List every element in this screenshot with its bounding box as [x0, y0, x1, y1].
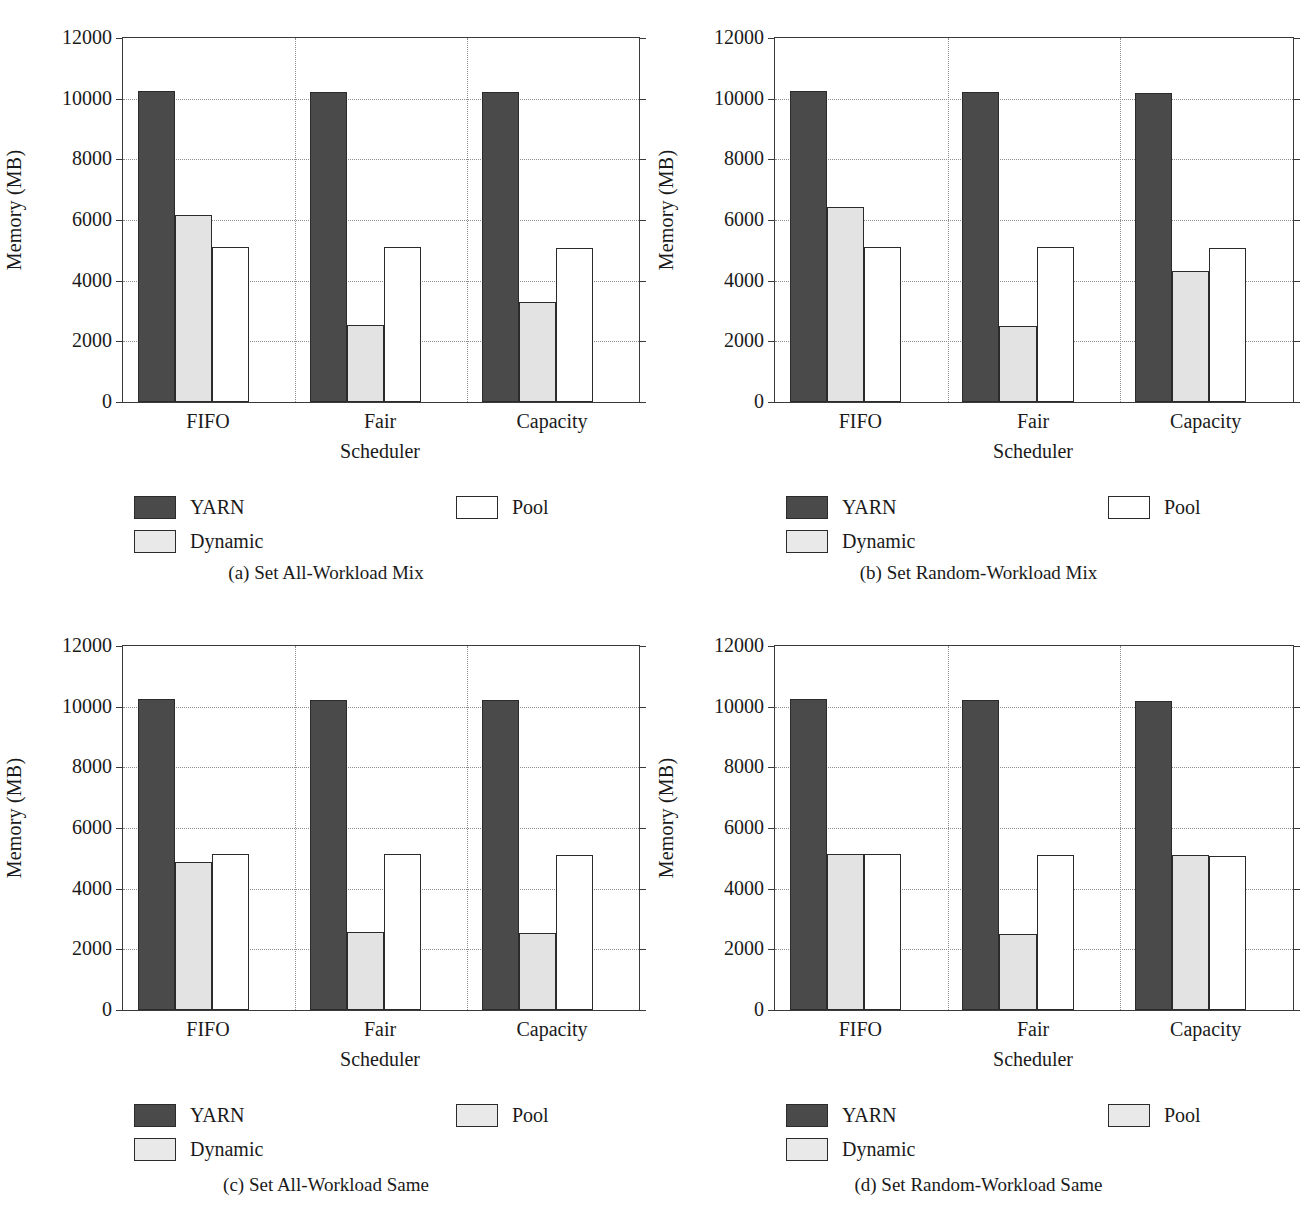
plot-c: Memory (MB) 020004000600080001000012000F…: [0, 608, 652, 1028]
bar-yarn-capacity: [482, 92, 519, 402]
bar-pool-fifo: [864, 247, 901, 402]
y-tick-label: 12000: [714, 26, 774, 49]
y-tick-mark: [1293, 949, 1300, 950]
legend-item-yarn-d[interactable]: YARN: [774, 1104, 1024, 1127]
bar-yarn-fifo: [138, 91, 175, 402]
legend-d: YARN Pool Dynamic: [774, 1098, 1274, 1166]
y-tick-label: 0: [102, 390, 122, 413]
legend-item-dynamic-d[interactable]: Dynamic: [774, 1138, 1024, 1161]
legend-label-dynamic: Dynamic: [190, 1138, 263, 1161]
bar-dynamic-fifo: [827, 854, 864, 1010]
axes-c: [122, 645, 640, 1011]
legend-item-pool-c[interactable]: Pool: [372, 1104, 622, 1127]
y-tick-label: 8000: [724, 147, 774, 170]
bar-yarn-fair: [310, 700, 347, 1010]
bar-yarn-fair: [310, 92, 347, 402]
y-tick-label: 2000: [724, 329, 774, 352]
x-tick-label-capacity: Capacity: [1170, 410, 1241, 433]
bar-pool-capacity: [1209, 856, 1246, 1010]
bar-dynamic-fifo: [827, 207, 864, 402]
swatch-yarn-icon: [134, 1104, 176, 1127]
swatch-dynamic-icon: [134, 530, 176, 553]
bar-yarn-fair: [962, 92, 999, 402]
caption-d-text: (d) Set Random-Workload Same: [854, 1174, 1102, 1195]
bar-dynamic-capacity: [1172, 855, 1209, 1010]
legend-item-pool-d[interactable]: Pool: [1024, 1104, 1274, 1127]
gridline-horizontal: [775, 159, 1293, 160]
x-tick-label-capacity: Capacity: [1170, 1018, 1241, 1041]
bar-yarn-fifo: [138, 699, 175, 1010]
swatch-pool-icon: [456, 1104, 498, 1127]
legend-item-yarn-b[interactable]: YARN: [774, 496, 1024, 519]
y-tick-label: 8000: [72, 755, 122, 778]
y-tick-label: 0: [754, 390, 774, 413]
x-tick-label-fair: Fair: [364, 1018, 396, 1041]
legend-item-pool-b[interactable]: Pool: [1024, 496, 1274, 519]
y-tick-label: 4000: [724, 876, 774, 899]
bar-yarn-fifo: [790, 91, 827, 402]
y-tick-mark: [1293, 707, 1300, 708]
legend-item-pool-a[interactable]: Pool: [372, 496, 622, 519]
bar-dynamic-fifo: [175, 862, 212, 1010]
y-tick-mark: [639, 767, 646, 768]
y-tick-mark: [1293, 767, 1300, 768]
bar-pool-fifo: [212, 247, 249, 402]
gridline-vertical: [467, 38, 468, 402]
y-axis-label-d: Memory (MB): [655, 758, 678, 879]
bar-pool-capacity: [556, 855, 593, 1010]
x-tick-label-fair: Fair: [1017, 410, 1049, 433]
legend-item-yarn-c[interactable]: YARN: [122, 1104, 372, 1127]
y-tick-label: 10000: [714, 86, 774, 109]
bar-pool-fair: [384, 247, 421, 402]
bar-pool-fair: [1037, 247, 1074, 402]
caption-b-text: (b) Set Random-Workload Mix: [860, 562, 1098, 583]
bar-dynamic-fair: [347, 325, 384, 402]
y-tick-label: 6000: [72, 816, 122, 839]
y-tick-label: 10000: [714, 694, 774, 717]
axes-b: [774, 37, 1294, 403]
x-axis-label: Scheduler: [993, 440, 1073, 463]
y-tick-label: 2000: [724, 937, 774, 960]
caption-a: (a) Set All-Workload Mix: [0, 562, 652, 584]
y-tick-mark: [1293, 889, 1300, 890]
y-tick-mark: [639, 828, 646, 829]
legend-label-yarn: YARN: [190, 1104, 244, 1127]
legend-item-yarn-a[interactable]: YARN: [122, 496, 372, 519]
gridline-horizontal: [123, 707, 639, 708]
y-axis-label-a: Memory (MB): [3, 150, 26, 271]
legend-label-dynamic: Dynamic: [190, 530, 263, 553]
x-tick-label-capacity: Capacity: [516, 410, 587, 433]
y-tick-mark: [639, 220, 646, 221]
y-tick-label: 12000: [62, 634, 122, 657]
legend-label-pool: Pool: [512, 1104, 549, 1127]
axes-a: [122, 37, 640, 403]
legend-item-dynamic-a[interactable]: Dynamic: [122, 530, 372, 553]
x-tick-label-fair: Fair: [1017, 1018, 1049, 1041]
y-tick-mark: [1293, 828, 1300, 829]
y-tick-mark: [639, 707, 646, 708]
panel-d: Memory (MB) 020004000600080001000012000F…: [652, 608, 1305, 1216]
x-axis-label: Scheduler: [340, 440, 420, 463]
gridline-horizontal: [123, 767, 639, 768]
bar-dynamic-fair: [999, 326, 1036, 402]
y-tick-label: 6000: [724, 816, 774, 839]
bar-dynamic-capacity: [1172, 271, 1209, 402]
gridline-vertical: [295, 38, 296, 402]
x-tick-label-fair: Fair: [364, 410, 396, 433]
gridline-horizontal: [123, 159, 639, 160]
y-tick-mark: [1293, 646, 1300, 647]
panel-b: Memory (MB) 020004000600080001000012000F…: [652, 0, 1305, 608]
legend-item-dynamic-b[interactable]: Dynamic: [774, 530, 1024, 553]
swatch-yarn-icon: [134, 496, 176, 519]
axes-d: [774, 645, 1294, 1011]
legend-label-pool: Pool: [1164, 496, 1201, 519]
bar-pool-capacity: [1209, 248, 1246, 402]
legend-item-dynamic-c[interactable]: Dynamic: [122, 1138, 372, 1161]
swatch-pool-icon: [1108, 1104, 1150, 1127]
bar-dynamic-fair: [999, 934, 1036, 1010]
y-tick-mark: [639, 99, 646, 100]
caption-a-text: (a) Set All-Workload Mix: [228, 562, 423, 583]
swatch-yarn-icon: [786, 1104, 828, 1127]
gridline-horizontal: [123, 99, 639, 100]
swatch-yarn-icon: [786, 496, 828, 519]
